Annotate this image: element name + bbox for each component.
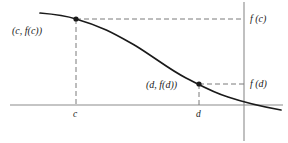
figure-canvas [0,0,288,143]
x-tick-label-c: c [73,110,77,120]
label-point-c: (c, f(c)) [12,26,42,36]
label-value-f-of-c: f (c) [250,14,266,24]
x-tick-label-d: d [196,110,201,120]
point-marker-d [196,81,201,86]
label-point-d: (d, f(d)) [146,80,177,90]
function-graph-figure: (c, f(c)) (d, f(d)) f (c) f (d) c d [0,0,288,143]
point-marker-c [73,16,78,21]
label-value-f-of-d: f (d) [250,79,267,89]
